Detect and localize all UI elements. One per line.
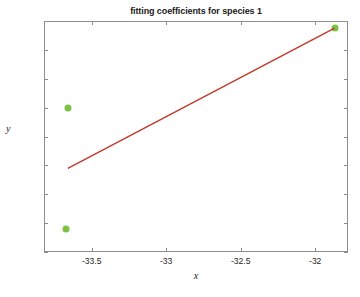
x-tick-mark-top	[241, 21, 242, 25]
x-tick-label: -33.5	[82, 256, 101, 266]
y-tick-mark	[44, 194, 48, 195]
chart-figure: fitting coefficients for species 1 y x 0…	[0, 0, 360, 297]
y-tick-mark	[44, 165, 48, 166]
data-point	[331, 25, 338, 32]
y-tick-mark-right	[344, 21, 348, 22]
x-tick-mark	[315, 248, 316, 252]
x-tick-label: -32.5	[231, 256, 250, 266]
y-tick-mark	[44, 50, 48, 51]
y-tick-mark-right	[344, 108, 348, 109]
chart-title: fitting coefficients for species 1	[44, 6, 348, 16]
y-tick-mark	[44, 108, 48, 109]
x-tick-mark	[241, 248, 242, 252]
y-tick-mark-right	[344, 194, 348, 195]
y-tick-mark	[44, 223, 48, 224]
x-tick-mark-top	[166, 21, 167, 25]
y-tick-mark	[44, 79, 48, 80]
plot-area	[44, 21, 348, 252]
x-tick-label: -33	[160, 256, 172, 266]
x-axis-label: x	[44, 270, 348, 281]
y-tick-mark-right	[344, 50, 348, 51]
y-tick-mark-right	[344, 165, 348, 166]
x-tick-mark-top	[315, 21, 316, 25]
y-tick-mark-right	[344, 223, 348, 224]
y-tick-mark	[44, 252, 48, 253]
y-tick-mark-right	[344, 252, 348, 253]
y-tick-mark-right	[344, 79, 348, 80]
y-axis-label: y	[6, 123, 10, 134]
data-point	[63, 225, 70, 232]
x-tick-label: -32	[309, 256, 321, 266]
data-point	[64, 104, 71, 111]
x-tick-mark	[92, 248, 93, 252]
x-tick-mark-top	[92, 21, 93, 25]
y-tick-mark	[44, 137, 48, 138]
x-tick-mark	[166, 248, 167, 252]
y-tick-mark-right	[344, 137, 348, 138]
y-tick-mark	[44, 21, 48, 22]
